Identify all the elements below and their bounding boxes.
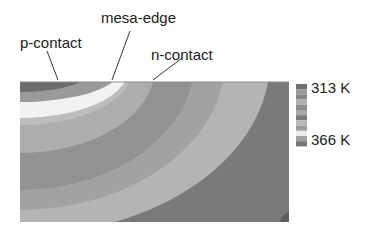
mesa-edge-leader	[112, 31, 130, 80]
p-contact-leader	[47, 51, 58, 80]
colorbar-min-label: 313 K	[311, 80, 350, 95]
contour-figure: p-contact mesa-edge n-contact 313 K 366 …	[0, 0, 371, 229]
mesa-edge-label: mesa-edge	[101, 10, 176, 25]
colorbar-max-label: 366 K	[311, 132, 350, 147]
p-contact-label: p-contact	[20, 35, 82, 50]
n-contact-label: n-contact	[151, 47, 213, 62]
colorbar	[296, 84, 307, 146]
